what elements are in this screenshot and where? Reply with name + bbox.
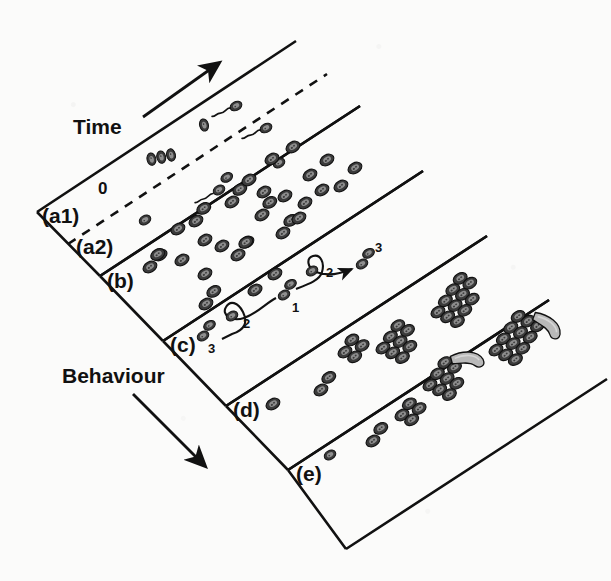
band-label-e: (e) xyxy=(296,462,322,485)
behaviour-axis-label: Behaviour xyxy=(62,364,165,387)
time-axis-arrow xyxy=(143,63,219,117)
cluster-pair xyxy=(308,369,341,398)
trajectory-cell-3-left xyxy=(192,318,220,343)
trajectory-label-1: 1 xyxy=(292,300,299,315)
trajectory-label-2-left: 2 xyxy=(243,316,250,331)
time-axis-label: Time xyxy=(73,115,122,138)
time-axis: Time xyxy=(73,63,219,138)
cluster-medium xyxy=(368,314,427,371)
figure-canvas: Time Behaviour 0 (a1) (a2) (b) (c) (d) (… xyxy=(0,0,611,581)
cluster-single xyxy=(264,396,282,412)
trajectory-right xyxy=(296,256,352,289)
band-outlines xyxy=(37,41,607,549)
band-label-a2: (a2) xyxy=(76,235,113,258)
band-label-d: (d) xyxy=(233,398,260,421)
band-a2-cells xyxy=(151,139,364,263)
trajectory-label-2-right: 2 xyxy=(326,265,333,280)
trajectory-label-3-right: 3 xyxy=(375,240,382,255)
cluster-e-large xyxy=(478,294,570,374)
origin-tick-label: 0 xyxy=(98,179,107,198)
cluster-e-medium xyxy=(415,339,496,409)
band-b-cells xyxy=(137,234,284,312)
trajectory-label-3-left: 3 xyxy=(208,341,215,356)
behaviour-axis: Behaviour xyxy=(62,364,205,466)
cluster-large xyxy=(420,267,492,336)
band-label-c: (c) xyxy=(170,333,196,356)
behaviour-axis-arrow xyxy=(133,394,205,466)
trajectory-cell-2-right xyxy=(304,264,319,278)
band-label-a1: (a1) xyxy=(42,204,79,227)
cluster-e-single xyxy=(322,448,337,462)
trajectory-cell-2-left xyxy=(224,309,239,323)
band-label-b: (b) xyxy=(107,269,134,292)
swarming-diagram: Time Behaviour 0 (a1) (a2) (b) (c) (d) (… xyxy=(0,0,611,581)
cluster-e-pair xyxy=(360,420,393,449)
cluster-small xyxy=(332,329,374,368)
